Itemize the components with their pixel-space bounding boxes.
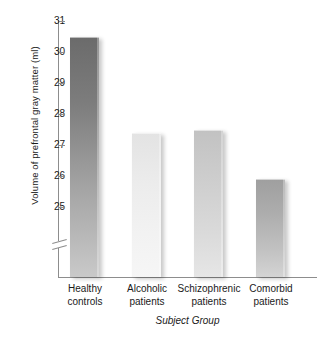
x-tick-label-alcoholic-patients: Alcoholic patients: [116, 283, 178, 308]
y-tick-mark-31: [59, 21, 65, 22]
bar-right-highlight: [283, 179, 285, 277]
bar-comorbid-patients: [256, 179, 285, 277]
y-tick-mark-27: [59, 145, 65, 146]
bar-top-highlight: [256, 179, 285, 180]
y-tick-30: 30: [0, 47, 65, 57]
y-tick-mark-25: [59, 207, 65, 208]
x-tick-label-line2: patients: [116, 296, 178, 309]
x-tick-label-line2: controls: [54, 296, 116, 309]
bar-chart-figure: Volume of prefrontal gray matter (ml) 31…: [0, 0, 319, 338]
x-tick-label-line1: Healthy: [68, 283, 102, 294]
x-tick-label-line2: patients: [173, 296, 245, 309]
y-tick-mark-30: [59, 52, 65, 53]
x-tick-label-line1: Comorbid: [249, 283, 292, 294]
x-axis-title: Subject Group: [58, 315, 317, 326]
y-tick-28: 28: [0, 109, 65, 119]
x-tick-label-schizophrenic-patients: Schizophrenic patients: [173, 283, 245, 308]
bar-right-highlight: [159, 133, 161, 277]
x-tick-label-comorbid-patients: Comorbid patients: [240, 283, 302, 308]
bar-top-highlight: [194, 130, 223, 131]
y-tick-25: 25: [0, 202, 65, 212]
y-tick-27: 27: [0, 140, 65, 150]
y-tick-mark-29: [59, 83, 65, 84]
y-tick-mark-28: [59, 114, 65, 115]
bar-top-highlight: [70, 37, 99, 38]
x-tick-label-line1: Schizophrenic: [178, 283, 241, 294]
bar-alcoholic-patients: [132, 133, 161, 277]
y-tick-29: 29: [0, 78, 65, 88]
x-tick-label-healthy-controls: Healthy controls: [54, 283, 116, 308]
bar-right-highlight: [97, 37, 99, 278]
y-tick-26: 26: [0, 171, 65, 181]
x-tick-label-line1: Alcoholic: [127, 283, 167, 294]
y-tick-31: 31: [0, 16, 65, 26]
x-tick-label-line2: patients: [240, 296, 302, 309]
bar-top-highlight: [132, 133, 161, 134]
bar-schizophrenic-patients: [194, 130, 223, 278]
x-axis-line: [58, 277, 317, 278]
y-tick-mark-26: [59, 176, 65, 177]
axis-break-icon: [52, 236, 67, 254]
bar-healthy-controls: [70, 37, 99, 278]
bar-right-highlight: [221, 130, 223, 278]
